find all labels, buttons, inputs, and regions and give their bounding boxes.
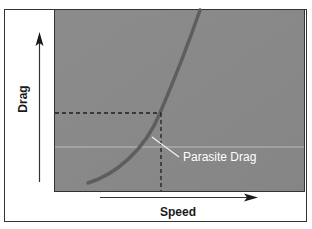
chart-canvas [0,0,312,229]
x-axis-label: Speed [160,205,196,219]
curve-label: Parasite Drag [183,150,256,164]
parasite-drag-figure: Drag Speed Parasite Drag [0,0,312,229]
plot-area [55,10,305,192]
y-axis-label: Drag [16,82,30,116]
